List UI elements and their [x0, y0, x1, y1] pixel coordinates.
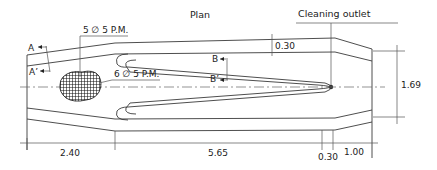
pm-lower-label: 6 ∅ 5 P.M. — [114, 69, 159, 79]
section-a-cut-line — [46, 46, 50, 72]
section-b-label: B — [212, 54, 218, 64]
section-a-label: A — [28, 43, 35, 53]
main-length-label: 5.65 — [208, 148, 228, 158]
section-a-arrowhead — [38, 45, 42, 49]
outlet-wall-label: 0.30 — [318, 152, 338, 162]
inlet-length-label: 2.40 — [60, 148, 80, 158]
width-label: 1.69 — [401, 80, 421, 90]
wall-thickness-label: 0.30 — [275, 41, 295, 51]
outer-wall-bottom-outer — [27, 119, 372, 131]
section-b-arrowhead — [220, 57, 224, 61]
plan-title: Plan — [190, 9, 210, 20]
plan-drawing: Plan Cleaning outlet 5 ∅ 5 P.M. 6 ∅ 5 P.… — [0, 0, 437, 170]
outlet-length-label: 1.00 — [344, 147, 364, 157]
pm-upper-label: 5 ∅ 5 P.M. — [83, 25, 128, 35]
outer-wall-bottom-inner — [27, 108, 372, 119]
baffle-bottom-inner — [126, 87, 330, 114]
section-b-prime-label: B’ — [210, 74, 219, 84]
outer-wall-top-inner — [27, 52, 372, 66]
cleaning-outlet-label: Cleaning outlet — [298, 8, 371, 19]
section-a-prime-arrowhead — [40, 69, 44, 73]
section-a-prime-label: A’ — [29, 67, 38, 77]
pm-hatched-area — [60, 71, 101, 101]
